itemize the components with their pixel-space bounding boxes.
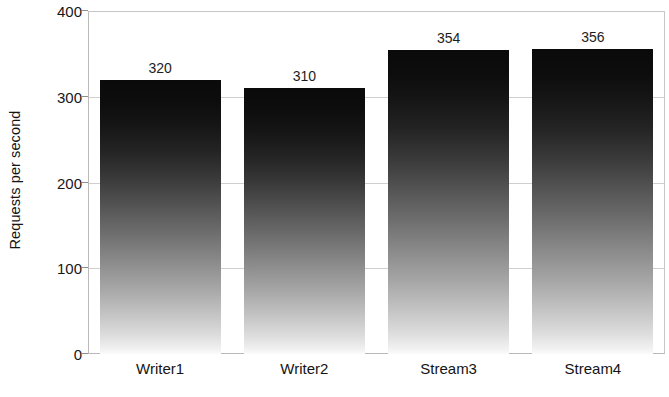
y-axis-title: Requests per second bbox=[0, 0, 30, 360]
x-axis-category-label: Stream3 bbox=[420, 360, 477, 377]
bar bbox=[388, 50, 509, 354]
x-axis-category-labels: Writer1Writer2Stream3Stream4 bbox=[88, 360, 665, 390]
y-axis-tick-mark bbox=[81, 10, 88, 11]
x-axis-category-label: Writer1 bbox=[136, 360, 184, 377]
y-axis-tick-label: 400 bbox=[30, 3, 82, 20]
y-axis-tick-marks bbox=[80, 11, 88, 354]
y-axis-tick-label: 200 bbox=[30, 174, 82, 191]
bar-value-label: 310 bbox=[293, 68, 316, 84]
y-axis-tick-mark bbox=[81, 353, 88, 354]
x-axis-category-label: Writer2 bbox=[280, 360, 328, 377]
y-axis-tick-label: 0 bbox=[30, 346, 82, 363]
bar bbox=[244, 88, 365, 354]
y-axis-tick-mark bbox=[81, 267, 88, 268]
bars-layer: 320310354356 bbox=[88, 11, 665, 354]
y-axis-tick-label: 300 bbox=[30, 88, 82, 105]
bar-value-label: 320 bbox=[148, 60, 171, 76]
bar-chart: Requests per second 0100200300400 320310… bbox=[0, 0, 669, 397]
y-axis-tick-mark bbox=[81, 182, 88, 183]
bar-value-label: 356 bbox=[581, 29, 604, 45]
bar bbox=[100, 80, 221, 354]
y-axis-tick-mark bbox=[81, 96, 88, 97]
bar-value-label: 354 bbox=[437, 30, 460, 46]
bar bbox=[532, 49, 653, 354]
y-axis-tick-label: 100 bbox=[30, 260, 82, 277]
x-axis-category-label: Stream4 bbox=[565, 360, 622, 377]
y-axis-title-text: Requests per second bbox=[7, 111, 23, 250]
y-axis-tick-labels: 0100200300400 bbox=[30, 0, 82, 397]
